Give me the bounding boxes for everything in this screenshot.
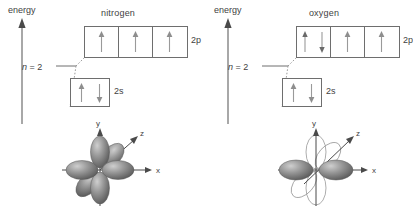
axis-label-z: z	[356, 129, 360, 138]
spin-up-arrow	[153, 27, 187, 57]
lobe-px-negative	[66, 161, 98, 180]
spin-down-arrow	[318, 31, 326, 53]
axis-label-y: y	[96, 119, 100, 128]
subshell-row-2s	[70, 78, 110, 107]
subshell-row-2p	[296, 26, 400, 58]
orbital-box-2s-1[interactable]	[71, 79, 109, 106]
subshell-row-2s	[282, 78, 322, 107]
subshell-label-2p: 2p	[191, 35, 201, 45]
lobe-px-positive	[102, 161, 134, 180]
spin-up-arrow	[289, 83, 298, 103]
panel-oxygen: oxygen energy n = 2 2p	[206, 0, 412, 216]
orbital-box-2s-1[interactable]	[283, 79, 321, 106]
spin-pair	[283, 79, 321, 106]
spin-up-arrow	[365, 27, 399, 57]
orbital-box-2p-1[interactable]	[297, 27, 331, 57]
axis-label-z: z	[140, 129, 144, 138]
panel-nitrogen: nitrogen energy n = 2 2p	[0, 0, 206, 216]
spin-pair	[71, 79, 109, 106]
subshell-row-2p	[84, 26, 188, 58]
axis-label-x: x	[156, 166, 160, 175]
subshell-label-2s: 2s	[326, 86, 336, 96]
lobe-px-positive	[319, 160, 353, 180]
spin-pair	[297, 27, 330, 57]
axis-label-y: y	[312, 119, 316, 128]
orbital-box-2p-3[interactable]	[365, 27, 399, 57]
spin-up-arrow	[119, 27, 152, 57]
spin-down-arrow	[307, 83, 316, 103]
spin-down-arrow	[95, 83, 104, 103]
subshell-label-2p: 2p	[403, 35, 413, 45]
orbital-diagram-oxygen: x y z	[264, 118, 384, 210]
subshell-label-2s: 2s	[114, 86, 124, 96]
lobe-px-negative	[279, 160, 313, 180]
spin-up-arrow	[331, 27, 364, 57]
spin-up-arrow	[77, 83, 86, 103]
orbital-box-2p-2[interactable]	[119, 27, 153, 57]
orbital-box-2p-2[interactable]	[331, 27, 365, 57]
orbital-box-2p-3[interactable]	[153, 27, 187, 57]
orbital-box-2p-1[interactable]	[85, 27, 119, 57]
spin-up-arrow	[301, 31, 309, 53]
spin-up-arrow	[85, 27, 118, 57]
orbital-diagram-nitrogen: x y z	[48, 118, 168, 210]
axis-label-x: x	[372, 166, 376, 175]
